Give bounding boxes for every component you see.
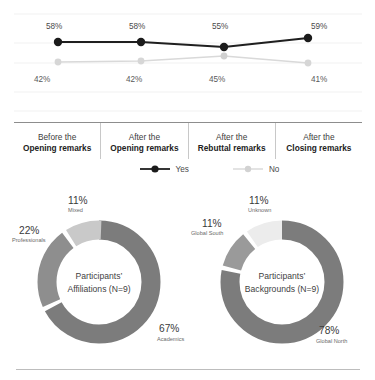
category-cell-before-opening: Before the Opening remarks [14, 123, 100, 159]
category-line-top: After the [303, 132, 334, 142]
no-value-label: 42% [126, 75, 142, 84]
legend-marker-yes-icon [140, 164, 170, 174]
donut-title-line2: Backgrounds (N=9) [245, 284, 319, 294]
category-line-bottom: Rebuttal remarks [198, 143, 266, 153]
donut-charts-section: Participants’ Affiliations (N=9) 11% Mix… [0, 182, 375, 364]
no-value-label: 45% [209, 75, 225, 84]
yes-value-label: 59% [311, 22, 327, 31]
legend-label-yes: Yes [176, 165, 189, 174]
donut-callout-pct: 11% [68, 195, 88, 206]
donut-callout-name: Professionals [12, 237, 46, 243]
donut-callout-pct: 11% [202, 218, 222, 229]
donut-title-line2: Affiliations (N=9) [67, 284, 130, 294]
chart-legend: Yes No [0, 160, 375, 178]
series-no-point [55, 59, 62, 66]
trend-line-chart: 58% 58% 55% 59% 42% 42% 45% 41% [0, 0, 375, 118]
donut-callout-pct: 78% [319, 325, 339, 336]
yes-value-label: 58% [129, 22, 145, 31]
donut-chart-backgrounds: Participants’ Backgrounds (N=9) 11% Unkn… [189, 182, 375, 364]
donut-callout-name: Unknown [248, 207, 271, 213]
series-no-point [305, 60, 312, 67]
category-line-top: After the [216, 132, 247, 142]
donut-callout-pct: 67% [159, 323, 179, 334]
donut-title-line1: Participants’ [259, 271, 306, 281]
yes-value-label: 58% [46, 22, 62, 31]
line-chart-section: 58% 58% 55% 59% 42% 42% 45% 41% [0, 0, 375, 118]
no-value-label: 42% [34, 75, 50, 84]
donut-title-line1: Participants’ [76, 271, 123, 281]
series-yes-line [58, 38, 308, 47]
donut-callout-name: Mixed [68, 207, 83, 213]
series-no-point [138, 58, 145, 65]
yes-value-label: 55% [212, 22, 228, 31]
donut-callout-pct: 11% [249, 195, 269, 206]
donut-callout-name: Academics [157, 336, 185, 342]
series-no-line [58, 56, 308, 63]
series-no-point [221, 53, 228, 60]
donut-chart-affiliations: Participants’ Affiliations (N=9) 11% Mix… [6, 182, 192, 364]
legend-item-no[interactable]: No [233, 164, 279, 174]
series-yes-point [54, 38, 62, 46]
category-line-bottom: Closing remarks [286, 143, 351, 153]
series-yes-point [137, 38, 145, 46]
legend-item-yes[interactable]: Yes [140, 164, 189, 174]
category-cell-after-opening: After the Opening remarks [100, 123, 187, 159]
donut-callout-name: Global South [191, 230, 223, 236]
category-line-top: After the [129, 132, 160, 142]
x-axis-category-band: Before the Opening remarks After the Ope… [14, 122, 362, 159]
series-yes-point [304, 34, 312, 42]
no-value-label: 41% [311, 75, 327, 84]
donut-callout-name: Global North [316, 338, 347, 344]
bottom-divider [16, 369, 360, 370]
category-cell-after-rebuttal: After the Rebuttal remarks [188, 123, 275, 159]
category-line-top: Before the [38, 132, 76, 142]
legend-label-no: No [269, 165, 279, 174]
category-line-bottom: Opening remarks [23, 143, 91, 153]
legend-marker-no-icon [233, 164, 263, 174]
category-cell-after-closing: After the Closing remarks [275, 123, 362, 159]
donut-callout-pct: 22% [19, 225, 39, 236]
category-line-bottom: Opening remarks [110, 143, 178, 153]
series-yes-point [220, 43, 228, 51]
